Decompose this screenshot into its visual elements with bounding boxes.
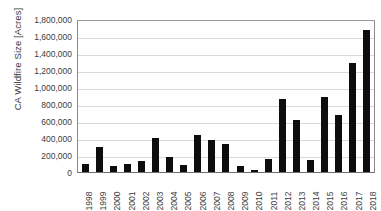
bar[interactable] (335, 115, 342, 172)
bar-slot (148, 21, 162, 172)
x-tick-slot: 1999 (91, 174, 105, 211)
bar-slot (219, 21, 233, 172)
bar-slot (304, 21, 318, 172)
x-axis-tick-label: 2018 (368, 192, 378, 211)
x-tick-slot: 1998 (77, 174, 91, 211)
bar-series (78, 21, 374, 172)
bar[interactable] (208, 140, 215, 172)
bar[interactable] (251, 170, 258, 172)
bar[interactable] (293, 120, 300, 172)
bar-slot (120, 21, 134, 172)
x-tick-slot: 2016 (332, 174, 346, 211)
bar[interactable] (152, 138, 159, 172)
x-tick-slot: 2014 (304, 174, 318, 211)
bar[interactable] (222, 144, 229, 172)
bar[interactable] (110, 166, 117, 172)
bar-slot (360, 21, 374, 172)
bar[interactable] (307, 160, 314, 172)
bar-slot (346, 21, 360, 172)
x-tick-slot: 2018 (361, 174, 375, 211)
bar[interactable] (82, 164, 89, 172)
bar-slot (134, 21, 148, 172)
x-tick-slot: 2012 (276, 174, 290, 211)
y-axis-tick-label: 200,000 (18, 151, 72, 161)
y-axis-tick-label: 0 (18, 168, 72, 178)
x-tick-slot: 2002 (134, 174, 148, 211)
y-axis-tick-label: 1,200,000 (18, 66, 72, 76)
bar[interactable] (265, 159, 272, 172)
x-tick-slot: 2001 (120, 174, 134, 211)
bar-slot (191, 21, 205, 172)
bar-slot (106, 21, 120, 172)
y-axis-tick-labels: 1,800,0001,600,0001,400,0001,200,0001,00… (18, 14, 74, 178)
x-tick-slot: 2017 (347, 174, 361, 211)
x-tick-slot: 2011 (261, 174, 275, 211)
y-axis-tick-label: 800,000 (18, 100, 72, 110)
x-tick-slot: 2015 (318, 174, 332, 211)
bar-slot (247, 21, 261, 172)
bar[interactable] (180, 165, 187, 172)
plot-area (77, 20, 375, 173)
x-tick-slot: 2007 (205, 174, 219, 211)
bar[interactable] (194, 135, 201, 172)
bar-slot (177, 21, 191, 172)
bar[interactable] (279, 99, 286, 172)
y-axis-tick-label: 1,000,000 (18, 83, 72, 93)
x-tick-slot: 2003 (148, 174, 162, 211)
bar-slot (332, 21, 346, 172)
bar-slot (318, 21, 332, 172)
bar[interactable] (124, 164, 131, 172)
bar-slot (275, 21, 289, 172)
bar[interactable] (349, 63, 356, 172)
x-tick-slot: 2006 (191, 174, 205, 211)
bar[interactable] (321, 97, 328, 172)
wildfire-bar-chart: CA Wildfire Size [Acres] 1,800,0001,600,… (0, 0, 381, 211)
y-axis-tick-label: 400,000 (18, 134, 72, 144)
bar-slot (233, 21, 247, 172)
bar-slot (205, 21, 219, 172)
bar[interactable] (96, 147, 103, 172)
bar[interactable] (363, 30, 370, 172)
x-axis-tick-labels: 1998199920002001200220032004200520062007… (77, 174, 375, 211)
y-axis-tick-label: 1,600,000 (18, 32, 72, 42)
x-tick-slot: 2005 (176, 174, 190, 211)
x-tick-slot: 2004 (162, 174, 176, 211)
bar[interactable] (237, 166, 244, 172)
x-tick-slot: 2000 (105, 174, 119, 211)
x-tick-slot: 2008 (219, 174, 233, 211)
x-tick-slot: 2010 (247, 174, 261, 211)
y-axis-tick-label: 1,800,000 (18, 15, 72, 25)
bar-slot (261, 21, 275, 172)
bar-slot (92, 21, 106, 172)
y-axis-tick-label: 1,400,000 (18, 49, 72, 59)
x-tick-slot: 2009 (233, 174, 247, 211)
bar-slot (78, 21, 92, 172)
bar[interactable] (166, 157, 173, 172)
bar-slot (289, 21, 303, 172)
x-tick-slot: 2013 (290, 174, 304, 211)
bar[interactable] (138, 161, 145, 172)
y-axis-tick-label: 600,000 (18, 117, 72, 127)
bar-slot (163, 21, 177, 172)
